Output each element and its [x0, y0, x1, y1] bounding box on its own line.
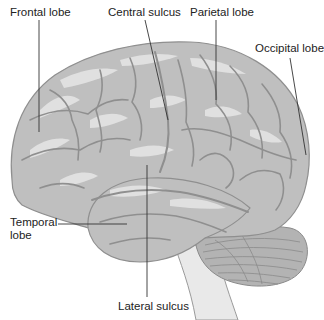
- central-sulcus-label: Central sulcus: [108, 6, 181, 19]
- frontal-lobe-label: Frontal lobe: [10, 6, 71, 19]
- lateral-sulcus-label: Lateral sulcus: [118, 300, 189, 313]
- parietal-lobe-label: Parietal lobe: [190, 6, 254, 19]
- temporal-lobe-label-line1: Temporal: [10, 216, 57, 229]
- occipital-lobe-label: Occipital lobe: [255, 42, 324, 55]
- temporal-lobe-label-line2: lobe: [10, 229, 32, 242]
